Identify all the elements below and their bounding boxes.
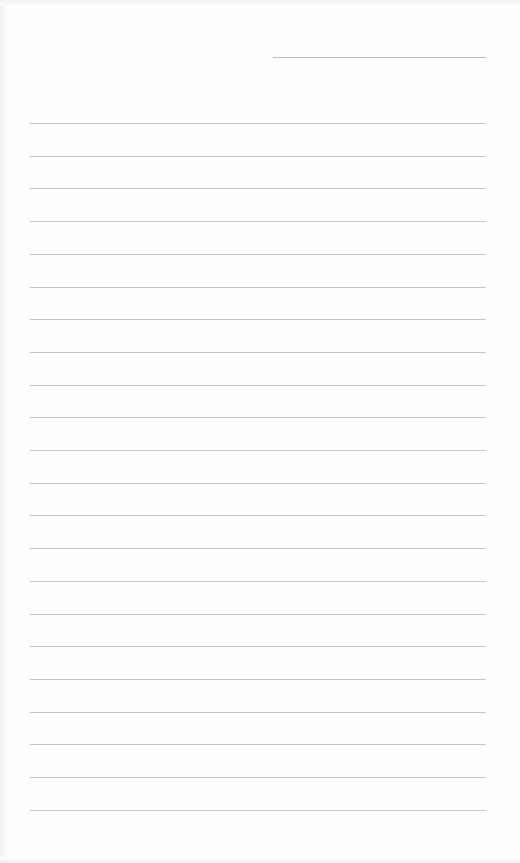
ruled-line <box>30 483 486 484</box>
ruled-line <box>30 777 486 778</box>
ruled-line <box>30 385 486 386</box>
lined-paper-page <box>0 0 520 863</box>
ruled-line <box>30 646 486 647</box>
ruled-line <box>30 450 486 451</box>
page-edge-shadow-bottom <box>0 857 520 863</box>
page-edge-shadow-top <box>0 0 520 6</box>
ruled-line <box>30 287 486 288</box>
ruled-line <box>30 548 486 549</box>
ruled-line <box>30 254 486 255</box>
ruled-line <box>30 744 486 745</box>
ruled-line <box>30 581 486 582</box>
ruled-line <box>30 221 486 222</box>
ruled-line <box>30 417 486 418</box>
ruled-line <box>30 123 486 124</box>
ruled-line <box>30 352 486 353</box>
ruled-line <box>30 319 486 320</box>
ruled-line <box>30 712 486 713</box>
header-date-line <box>273 57 486 58</box>
ruled-line <box>30 156 486 157</box>
page-edge-shadow-left <box>0 0 8 863</box>
ruled-line <box>30 188 486 189</box>
ruled-line <box>30 679 486 680</box>
ruled-line <box>30 614 486 615</box>
ruled-line <box>30 810 486 811</box>
ruled-line <box>30 515 486 516</box>
